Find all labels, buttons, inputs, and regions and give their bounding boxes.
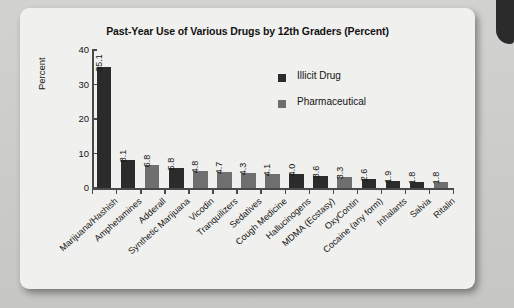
y-tick-label: 10 <box>78 148 89 160</box>
x-tick-mark <box>429 189 430 194</box>
scanned-page-background: Past-Year Use of Various Drugs by 12th G… <box>0 0 514 308</box>
bar-value-label: 35.1 <box>94 54 104 72</box>
y-axis-title: Percent <box>36 57 47 90</box>
x-tick-mark <box>212 189 213 194</box>
bar <box>289 174 304 188</box>
x-tick-mark <box>188 189 189 194</box>
bar-value-label: 3.6 <box>311 165 321 178</box>
x-category-label: Salvia <box>408 196 433 220</box>
bar <box>193 171 208 188</box>
y-tick-label: 30 <box>78 79 89 91</box>
x-tick-mark <box>309 189 310 194</box>
bar-value-label: 5.8 <box>166 158 176 171</box>
bar-value-label: 1.8 <box>407 172 417 185</box>
y-tick-label: 20 <box>78 113 89 125</box>
x-tick-mark <box>116 189 117 194</box>
bar <box>169 168 184 188</box>
x-tick-mark <box>260 189 261 194</box>
x-axis-line <box>92 188 454 190</box>
bar <box>241 173 256 188</box>
x-tick-mark <box>453 189 454 194</box>
x-tick-mark <box>285 189 286 194</box>
page-edge-marker <box>496 0 514 44</box>
bar <box>145 165 160 188</box>
x-tick-mark <box>333 189 334 194</box>
bar <box>97 67 112 188</box>
chart-title: Past-Year Use of Various Drugs by 12th G… <box>20 25 475 37</box>
bar-value-label: 1.8 <box>431 172 441 185</box>
y-tick-label: 0 <box>84 182 89 194</box>
legend-swatch-icon <box>278 100 286 108</box>
bar-value-label: 4.8 <box>190 161 200 174</box>
bar-value-label: 4.1 <box>262 164 272 177</box>
x-tick-mark <box>405 189 406 194</box>
x-tick-mark <box>357 189 358 194</box>
legend-label: Pharmaceutical <box>297 96 366 107</box>
figure-card: Past-Year Use of Various Drugs by 12th G… <box>20 8 475 289</box>
bar-value-label: 3.3 <box>335 166 345 179</box>
plot-area: 35.18.16.85.84.84.74.34.14.03.63.32.61.9… <box>92 50 453 188</box>
y-tick-label: 40 <box>78 44 89 56</box>
bar-value-label: 4.0 <box>287 164 297 177</box>
x-category-label: Ritalin <box>431 196 456 220</box>
bar-value-label: 4.3 <box>238 163 248 176</box>
bar-value-label: 8.1 <box>118 150 128 163</box>
bar-value-label: 4.7 <box>214 162 224 175</box>
bar-value-label: 6.8 <box>142 154 152 167</box>
bar-value-label: 1.9 <box>383 171 393 184</box>
legend-swatch-icon <box>278 74 286 82</box>
x-tick-mark <box>236 189 237 194</box>
legend-label: Illicit Drug <box>297 70 341 81</box>
x-tick-mark <box>140 189 141 194</box>
bar <box>121 160 136 188</box>
x-tick-mark <box>381 189 382 194</box>
bar-value-label: 2.6 <box>359 169 369 182</box>
x-tick-mark <box>164 189 165 194</box>
x-tick-mark <box>92 189 93 194</box>
